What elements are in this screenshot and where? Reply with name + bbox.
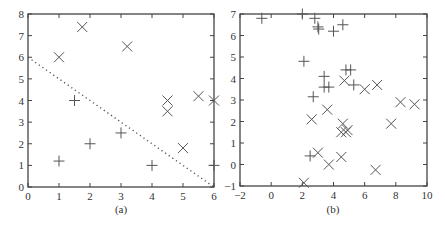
y-tick-label: 4 — [231, 73, 237, 85]
plus-marker-icon — [319, 71, 330, 82]
plus-marker-icon — [312, 21, 323, 32]
y-tick-label: 1 — [231, 137, 237, 149]
caption-b: (b) — [327, 203, 340, 216]
cross-marker-icon — [322, 105, 332, 115]
x-tick-label: 2 — [300, 189, 306, 201]
cross-marker-icon — [77, 22, 87, 32]
y-tick-label: 1 — [19, 159, 25, 171]
x-tick-label: 0 — [268, 189, 274, 201]
cross-marker-icon — [338, 119, 348, 129]
cross-marker-icon — [360, 84, 370, 94]
cross-marker-icon — [386, 119, 396, 129]
dotted-boundary-line — [28, 57, 214, 187]
x-tick-label: 1 — [56, 190, 62, 202]
plus-marker-icon — [298, 56, 309, 67]
y-tick-label: 5 — [231, 51, 237, 63]
x-tick-label: 0 — [25, 190, 31, 202]
cross-marker-icon — [372, 80, 382, 90]
plus-marker-icon — [69, 95, 80, 106]
y-tick-label: 6 — [19, 51, 25, 63]
x-tick-label: 8 — [393, 189, 399, 201]
y-tick-label: 0 — [19, 181, 25, 193]
x-tick-label: 4 — [331, 189, 337, 201]
cross-marker-icon — [122, 41, 132, 51]
cross-marker-icon — [307, 114, 317, 124]
x-tick-label: 10 — [422, 189, 434, 201]
figure: 0123456012345678 −20246810−101234567 (a)… — [0, 0, 445, 228]
x-tick-label: 6 — [211, 190, 217, 202]
y-tick-label: 4 — [19, 95, 25, 107]
y-tick-label: 7 — [19, 30, 25, 42]
y-tick-label: 3 — [19, 116, 25, 128]
plus-marker-icon — [308, 91, 319, 102]
x-tick-label: 2 — [87, 190, 93, 202]
x-tick-label: 3 — [118, 190, 124, 202]
y-tick-label: 6 — [231, 30, 237, 42]
plus-marker-icon — [54, 156, 65, 167]
scatter-panel-a: 0123456012345678 — [19, 8, 220, 202]
plus-marker-icon — [323, 82, 334, 93]
cross-marker-icon — [54, 52, 64, 62]
plus-marker-icon — [348, 79, 359, 90]
plus-marker-icon — [116, 127, 127, 138]
y-tick-label: 2 — [19, 138, 25, 150]
cross-marker-icon — [410, 99, 420, 109]
cross-marker-icon — [163, 106, 173, 116]
scatter-panel-b: −20246810−101234567 — [224, 8, 433, 201]
cross-marker-icon — [178, 143, 188, 153]
cross-marker-icon — [324, 160, 334, 170]
plus-marker-icon — [345, 64, 356, 75]
x-tick-label: 5 — [180, 190, 186, 202]
cross-marker-icon — [371, 165, 381, 175]
y-tick-label: 7 — [231, 8, 237, 20]
plus-marker-icon — [337, 19, 348, 30]
plus-marker-icon — [209, 160, 220, 171]
y-tick-label: 0 — [231, 159, 237, 171]
caption-a: (a) — [115, 203, 128, 216]
cross-marker-icon — [313, 148, 323, 158]
cross-marker-icon — [163, 96, 173, 106]
cross-marker-icon — [339, 76, 349, 86]
y-tick-label: 2 — [231, 116, 237, 128]
plus-marker-icon — [313, 24, 324, 35]
plus-marker-icon — [147, 160, 158, 171]
plus-marker-icon — [328, 26, 339, 37]
cross-marker-icon — [336, 152, 346, 162]
x-tick-label: 6 — [362, 189, 368, 201]
cross-marker-icon — [194, 91, 204, 101]
y-tick-label: 8 — [19, 8, 25, 20]
y-tick-label: 3 — [231, 94, 237, 106]
x-tick-label: 4 — [149, 190, 155, 202]
cross-marker-icon — [396, 97, 406, 107]
plus-marker-icon — [85, 138, 96, 149]
y-tick-label: −1 — [224, 180, 236, 192]
y-tick-label: 5 — [19, 73, 25, 85]
plus-marker-icon — [297, 9, 308, 20]
plus-marker-icon — [305, 150, 316, 161]
